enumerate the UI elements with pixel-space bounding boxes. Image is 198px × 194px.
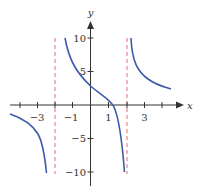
x-tick-label: −1 — [64, 112, 79, 123]
y-tick-label: 10 — [73, 33, 86, 44]
y-axis-label: y — [87, 7, 94, 18]
function-graph: x −3 −1 1 3 y 10 5 −5 −10 — [0, 0, 198, 194]
curve-right-branch — [131, 38, 171, 89]
y-axis-arrow-icon — [87, 21, 94, 29]
y-tick-label: −5 — [71, 133, 86, 144]
x-tick-label: 3 — [141, 112, 147, 123]
x-axis-label: x — [187, 100, 193, 111]
x-tick-label: 1 — [105, 112, 111, 123]
y-tick-label: −10 — [65, 167, 86, 178]
x-tick-label: −3 — [30, 112, 45, 123]
x-axis-arrow-icon — [176, 102, 184, 109]
